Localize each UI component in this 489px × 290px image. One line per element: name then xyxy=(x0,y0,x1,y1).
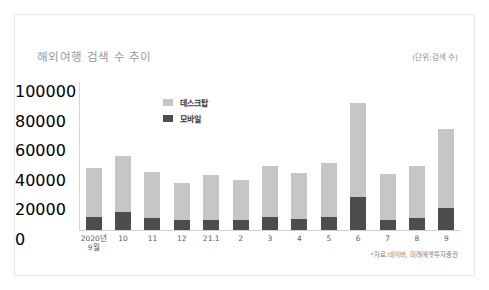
bar-segment-mobile xyxy=(262,217,278,230)
x-axis-line xyxy=(79,230,461,231)
y-axis-tick: 100000 xyxy=(15,82,79,101)
x-tick-label: 9 xyxy=(426,234,466,243)
bar-segment-desktop xyxy=(262,166,278,217)
bar-column[interactable] xyxy=(380,174,396,230)
plot-area: 020000400006000080000100000 2020년 9월1011… xyxy=(15,15,476,277)
legend-item[interactable]: 모바일 xyxy=(163,113,208,124)
bar-segment-mobile xyxy=(409,218,425,230)
bar-column[interactable] xyxy=(350,103,366,230)
y-tick-label: 0 xyxy=(15,230,79,249)
bar-segment-desktop xyxy=(438,129,454,207)
bar-segment-mobile xyxy=(233,220,249,230)
bar-column[interactable] xyxy=(233,180,249,230)
bar-segment-desktop xyxy=(321,163,337,217)
bar-segment-mobile xyxy=(438,208,454,230)
bar-segment-desktop xyxy=(409,166,425,219)
bar-segment-mobile xyxy=(86,217,102,230)
bar-segment-desktop xyxy=(203,175,219,219)
y-tick-label: 60000 xyxy=(15,141,79,160)
bar-segment-mobile xyxy=(291,219,307,230)
legend-swatch-mobile xyxy=(163,115,173,122)
bar-segment-desktop xyxy=(291,173,307,219)
y-axis-tick: 0 xyxy=(15,230,79,249)
y-tick-label: 100000 xyxy=(15,82,79,101)
bar-segment-desktop xyxy=(144,172,160,218)
bar-segment-desktop xyxy=(233,180,249,221)
bar-column[interactable] xyxy=(174,183,190,230)
chart-card: 해외여행 검색 수 추이 (단위:검색 수) 02000040000600008… xyxy=(14,14,475,276)
bar-column[interactable] xyxy=(262,166,278,230)
legend-item[interactable]: 데스크탑 xyxy=(163,97,208,108)
bar-column[interactable] xyxy=(321,163,337,230)
bar-segment-desktop xyxy=(350,103,366,198)
bar-column[interactable] xyxy=(291,173,307,230)
y-axis-tick: 40000 xyxy=(15,171,79,190)
bar-column[interactable] xyxy=(409,166,425,230)
bar-column[interactable] xyxy=(144,172,160,230)
y-tick-label: 20000 xyxy=(15,200,79,219)
y-tick-label: 80000 xyxy=(15,112,79,131)
bar-segment-mobile xyxy=(321,217,337,230)
chart-legend: 데스크탑모바일 xyxy=(163,97,208,129)
y-axis-tick: 20000 xyxy=(15,200,79,219)
bar-segment-desktop xyxy=(174,183,190,220)
bar-segment-mobile xyxy=(174,220,190,230)
legend-swatch-desktop xyxy=(163,99,173,106)
bar-column[interactable] xyxy=(115,156,131,230)
y-axis-tick: 80000 xyxy=(15,112,79,131)
bar-column[interactable] xyxy=(203,175,219,230)
bar-segment-desktop xyxy=(115,156,131,212)
source-note: *자료:네이버, 미래에셋투자증권 xyxy=(370,249,458,259)
bar-segment-mobile xyxy=(380,220,396,230)
legend-label: 모바일 xyxy=(180,113,201,124)
bar-column[interactable] xyxy=(86,168,102,230)
y-tick-label: 40000 xyxy=(15,171,79,190)
bar-segment-desktop xyxy=(380,174,396,220)
legend-label: 데스크탑 xyxy=(180,97,208,108)
bar-column[interactable] xyxy=(438,129,454,230)
bars-layer xyxy=(79,82,461,230)
bar-segment-mobile xyxy=(115,212,131,231)
bar-segment-mobile xyxy=(144,218,160,230)
bar-segment-mobile xyxy=(203,220,219,230)
y-axis-tick: 60000 xyxy=(15,141,79,160)
bar-segment-mobile xyxy=(350,197,366,230)
bar-segment-desktop xyxy=(86,168,102,217)
